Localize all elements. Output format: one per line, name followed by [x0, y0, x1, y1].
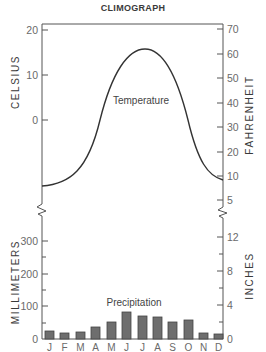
inches-axis-title: INCHES — [244, 252, 255, 299]
month-label-dec: D — [215, 342, 222, 352]
bar-oct — [184, 320, 193, 339]
celsius-ticks — [42, 30, 48, 120]
mm-tick-200: 200 — [20, 268, 38, 280]
fahrenheit-ticks — [217, 29, 223, 200]
month-label-sep: S — [169, 342, 176, 352]
bar-sep — [168, 322, 177, 339]
mm-tick-300: 300 — [20, 235, 38, 247]
fahrenheit-tick-10: 10 — [227, 170, 239, 182]
fahrenheit-tick-20: 20 — [227, 146, 239, 158]
mm-tick-0: 0 — [32, 333, 38, 345]
bar-nov — [199, 333, 208, 339]
inch-tick-12: 12 — [227, 231, 239, 243]
celsius-tick-20: 20 — [26, 24, 38, 36]
month-label-jan: J — [47, 342, 52, 352]
bar-dec — [214, 334, 223, 339]
bar-feb — [60, 333, 69, 339]
month-label-mar: M — [76, 342, 84, 352]
month-label-nov: N — [200, 342, 207, 352]
inch-tick-8: 8 — [227, 265, 233, 277]
bar-mar — [76, 332, 85, 339]
mm-tick-100: 100 — [20, 300, 38, 312]
inch-tick-0: 0 — [227, 333, 233, 345]
month-labels: J F M A M J J A S O N D — [47, 342, 222, 352]
axis-break-right — [218, 205, 227, 222]
precipitation-label: Precipitation — [106, 297, 161, 308]
millimeter-ticks — [42, 241, 48, 323]
axis-break-left — [37, 202, 46, 219]
month-label-aug: A — [154, 342, 161, 352]
fahrenheit-tick-60: 60 — [227, 48, 239, 60]
month-label-may: M — [107, 342, 115, 352]
bar-jan — [45, 331, 54, 339]
bar-aug — [153, 317, 162, 339]
climograph-chart: 20 10 0 70 60 50 40 30 20 10 5 300 200 1… — [0, 0, 266, 352]
month-label-jul: J — [140, 342, 145, 352]
precipitation-frame — [42, 219, 223, 339]
temperature-label: Temperature — [113, 95, 170, 106]
temperature-curve — [42, 49, 223, 186]
fahrenheit-tick-5: 5 — [227, 194, 233, 206]
month-label-oct: O — [185, 342, 193, 352]
bar-jul — [138, 316, 147, 339]
month-label-apr: A — [92, 342, 99, 352]
celsius-tick-10: 10 — [26, 69, 38, 81]
inch-ticks — [217, 237, 223, 322]
month-label-feb: F — [61, 342, 67, 352]
fahrenheit-tick-40: 40 — [227, 97, 239, 109]
bar-jun — [122, 312, 131, 339]
fahrenheit-axis-title: FAHRENHEIT — [244, 75, 255, 154]
fahrenheit-tick-50: 50 — [227, 72, 239, 84]
celsius-tick-0: 0 — [32, 114, 38, 126]
month-label-jun: J — [124, 342, 129, 352]
millimeters-axis-title: MILLIMETERS — [10, 240, 21, 324]
bar-apr — [91, 327, 100, 339]
fahrenheit-tick-70: 70 — [227, 23, 239, 35]
inch-tick-4: 4 — [227, 299, 233, 311]
bar-may — [107, 322, 116, 339]
celsius-axis-title: CELSIUS — [10, 55, 21, 109]
precipitation-bars — [45, 312, 223, 339]
fahrenheit-tick-30: 30 — [227, 121, 239, 133]
